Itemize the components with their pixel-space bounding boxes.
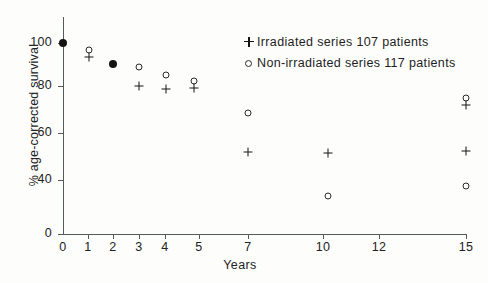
- x-tick-label: 7: [236, 240, 260, 254]
- y-axis-line: [63, 17, 64, 235]
- survival-scatter-chart: % age-corrected survival Years 100806040…: [0, 0, 488, 283]
- point-year15-irr-62: [462, 147, 471, 156]
- point-year5-combo: [190, 78, 199, 93]
- legend-entry: Non-irradiated series 117 patients: [243, 52, 456, 73]
- legend-label: Irradiated series 107 patients: [257, 35, 429, 49]
- point-year10-irr-60: [324, 149, 333, 158]
- legend-entry: Irradiated series 107 patients: [243, 31, 456, 52]
- y-tick-mark: [58, 234, 64, 235]
- plus-icon-v: [465, 100, 467, 109]
- point-year4-nonirr-85: [163, 72, 170, 79]
- x-tick-label: 10: [311, 240, 335, 254]
- x-tick-label: 2: [101, 240, 125, 254]
- chart-legend: Irradiated series 107 patientsNon-irradi…: [243, 31, 456, 73]
- x-tick-mark: [139, 234, 140, 239]
- x-tick-mark: [466, 234, 467, 239]
- point-year4-irr-78: [162, 85, 171, 94]
- y-tick-mark: [58, 133, 64, 134]
- legend-label: Non-irradiated series 117 patients: [257, 56, 456, 70]
- x-tick-label: 12: [367, 240, 391, 254]
- x-tick-mark: [88, 234, 89, 239]
- point-year0-both-100: [59, 39, 67, 47]
- x-tick-mark: [113, 234, 114, 239]
- point-year15-combo-78: [462, 95, 471, 110]
- point-year3-nonirr-89: [136, 64, 143, 71]
- x-tick-mark: [199, 234, 200, 239]
- point-year10-nonirr-45: [325, 193, 332, 200]
- plus-icon-v: [88, 52, 90, 61]
- x-tick-label: 15: [454, 240, 478, 254]
- point-year15-nonirr-48: [463, 183, 470, 190]
- x-axis-title: Years: [180, 258, 300, 272]
- x-tick-label: 1: [76, 240, 100, 254]
- point-year2-both-90: [109, 60, 117, 68]
- x-tick-label: 0: [51, 240, 75, 254]
- point-year7-irr-61: [244, 148, 253, 157]
- x-tick-label: 5: [187, 240, 211, 254]
- y-tick-label: 60: [12, 125, 52, 139]
- plus-icon-v: [193, 83, 195, 92]
- x-tick-mark: [323, 234, 324, 239]
- point-year3-irr-80: [135, 82, 144, 91]
- x-tick-label: 4: [153, 240, 177, 254]
- x-tick-label: 3: [127, 240, 151, 254]
- open-circle-icon: [243, 57, 257, 69]
- y-tick-label: 100: [12, 35, 52, 49]
- x-tick-mark: [379, 234, 380, 239]
- x-tick-mark: [165, 234, 166, 239]
- x-tick-mark: [248, 234, 249, 239]
- point-year7-nonirr-67: [245, 110, 252, 117]
- point-year1-combo: [85, 47, 94, 62]
- y-tick-label: 40: [12, 172, 52, 186]
- y-tick-mark: [58, 180, 64, 181]
- plus-icon: [243, 36, 257, 48]
- x-axis-line: [63, 234, 467, 235]
- y-tick-label: 0: [12, 226, 52, 240]
- y-tick-label: 80: [12, 78, 52, 92]
- y-tick-mark: [58, 86, 64, 87]
